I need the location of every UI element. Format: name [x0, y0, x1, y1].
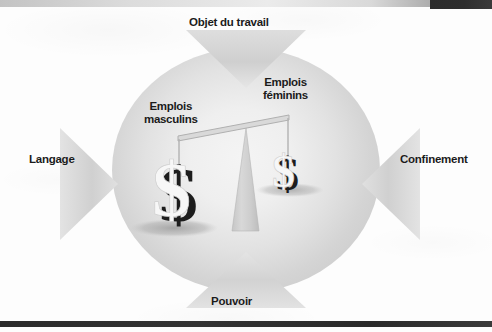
arrow-langage — [60, 128, 118, 240]
label-emplois-masculins-line2: masculins — [144, 113, 198, 126]
label-pouvoir: Pouvoir — [211, 295, 252, 308]
scan-bottom-rule — [0, 321, 492, 327]
label-confinement: Confinement — [400, 153, 468, 166]
label-emplois-feminins: Emplois féminins — [263, 76, 308, 101]
arrow-confinement — [362, 128, 420, 240]
scan-edge-dark-bar — [430, 0, 492, 9]
label-objet-du-travail: Objet du travail — [189, 16, 269, 29]
label-emplois-feminins-line1: Emplois — [263, 76, 308, 89]
label-langage: Langage — [29, 153, 75, 166]
scan-edge-gray-band — [0, 0, 432, 7]
figure-page: $ $ $ $ Objet du travail Langage Confine… — [0, 0, 492, 332]
label-emplois-masculins-line1: Emplois — [144, 100, 198, 113]
label-emplois-masculins: Emplois masculins — [144, 100, 198, 125]
label-emplois-feminins-line2: féminins — [263, 89, 308, 102]
